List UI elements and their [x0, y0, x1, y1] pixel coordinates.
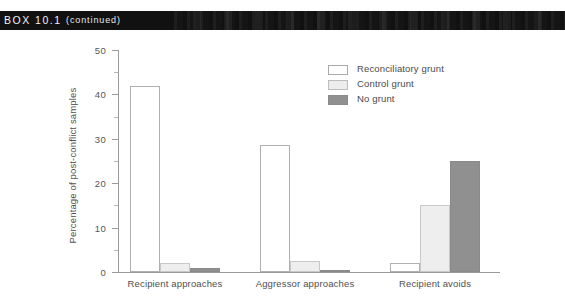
bar [320, 270, 350, 272]
y-tick-major [112, 272, 118, 273]
legend-swatch [328, 95, 348, 105]
bar [420, 205, 450, 272]
box-continued-label: (continued) [66, 15, 121, 25]
y-tick-label: 30 [66, 133, 106, 144]
bar [290, 261, 320, 272]
banner-texture [170, 11, 565, 30]
y-tick-label: 50 [66, 45, 106, 56]
legend-item: Reconciliatory grunt [328, 63, 503, 77]
y-tick-label: 40 [66, 89, 106, 100]
bar-chart-figure: Percentage of post-conflict samples 0102… [0, 30, 565, 301]
x-axis-group-label: Aggressor approaches [245, 278, 365, 289]
y-tick-label: 20 [66, 178, 106, 189]
bar [390, 263, 420, 272]
bar [450, 161, 480, 272]
legend-item: Control grunt [328, 78, 503, 92]
legend-label: Reconciliatory grunt [357, 63, 444, 74]
x-axis-line [118, 272, 500, 273]
legend-label: No grunt [357, 93, 395, 104]
bar [130, 86, 160, 272]
chart-legend: Reconciliatory gruntControl gruntNo grun… [328, 63, 503, 108]
box-number-label: BOX 10.1 [4, 14, 62, 26]
legend-swatch [328, 80, 348, 90]
legend-item: No grunt [328, 93, 503, 107]
y-tick-label: 10 [66, 222, 106, 233]
bar [160, 263, 190, 272]
x-axis-group-label: Recipient approaches [115, 278, 235, 289]
legend-swatch [328, 65, 348, 75]
bar [190, 268, 220, 272]
legend-label: Control grunt [357, 78, 414, 89]
bar [260, 145, 290, 272]
y-tick-label: 0 [66, 267, 106, 278]
x-axis-group-label: Recipient avoids [375, 278, 495, 289]
box-header-banner: BOX 10.1 (continued) [0, 11, 565, 30]
